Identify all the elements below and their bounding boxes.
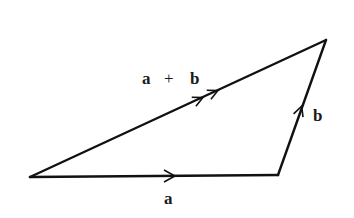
- label-a-plus-b-plus: +: [164, 69, 174, 88]
- label-a-plus-b-b: b: [190, 69, 199, 88]
- label-b: b: [313, 106, 322, 125]
- vector-a-line: [30, 175, 278, 177]
- label-a-plus-b-a: a: [142, 69, 151, 88]
- label-a: a: [164, 189, 173, 208]
- vector-a-plus-b-line: [30, 40, 326, 177]
- vector-addition-diagram: a + b b a: [0, 0, 354, 218]
